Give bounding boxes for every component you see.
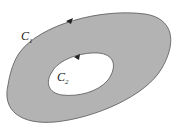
annular-region: [7, 13, 171, 123]
annular-region-diagram: C1 C2: [0, 0, 178, 132]
inner-curve-label: C2: [57, 70, 69, 86]
outer-curve-label: C1: [21, 29, 33, 45]
